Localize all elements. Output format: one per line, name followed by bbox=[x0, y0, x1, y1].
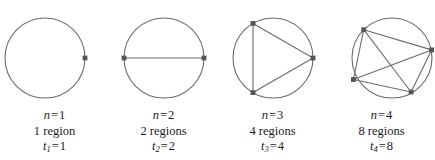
point-marker bbox=[251, 90, 256, 95]
equals-sign: = bbox=[268, 108, 277, 122]
point-marker bbox=[251, 21, 256, 26]
n-value: 1 bbox=[59, 108, 65, 122]
diagram-panel-2: n=2 2 regions t2=2 bbox=[109, 0, 218, 160]
equals-sign: = bbox=[160, 139, 169, 153]
caption-regions-line: 4 regions bbox=[218, 124, 327, 140]
panel-caption-3: n=3 4 regions t3=4 bbox=[218, 108, 327, 157]
panel-caption-1: n=1 1 region t1=1 bbox=[0, 108, 109, 157]
circle-figure-3 bbox=[218, 0, 327, 108]
caption-regions-line: 2 regions bbox=[109, 124, 218, 140]
caption-n-line: n=1 bbox=[0, 108, 109, 124]
equals-sign: = bbox=[377, 108, 386, 122]
panel-caption-2: n=2 2 regions t2=2 bbox=[109, 108, 218, 157]
n-value: 4 bbox=[386, 108, 392, 122]
n-value: 2 bbox=[168, 108, 174, 122]
chord-line bbox=[353, 30, 363, 80]
caption-n-line: n=2 bbox=[109, 108, 218, 124]
point-marker bbox=[83, 56, 88, 61]
caption-t-line: t4=8 bbox=[327, 139, 435, 157]
diagram-panel-1: n=1 1 region t1=1 bbox=[0, 0, 109, 160]
point-marker bbox=[311, 56, 316, 61]
panel-caption-4: n=4 8 regions t4=8 bbox=[327, 108, 435, 157]
n-value: 3 bbox=[277, 108, 283, 122]
caption-regions-line: 8 regions bbox=[327, 124, 435, 140]
circle-figure-1 bbox=[0, 0, 109, 108]
point-marker bbox=[361, 27, 366, 32]
diagram-panel-3: n=3 4 regions t3=4 bbox=[218, 0, 327, 160]
circle-figure-4 bbox=[327, 0, 435, 108]
point-marker bbox=[202, 56, 207, 61]
equals-sign: = bbox=[159, 108, 168, 122]
equals-sign: = bbox=[50, 108, 59, 122]
point-marker bbox=[429, 48, 434, 53]
t-value: 1 bbox=[60, 139, 66, 153]
caption-t-line: t1=1 bbox=[0, 139, 109, 157]
equals-sign: = bbox=[378, 139, 387, 153]
figure-canvas: n=1 1 region t1=1 n=2 2 regions t2=2 bbox=[0, 0, 435, 160]
caption-n-line: n=4 bbox=[327, 108, 435, 124]
point-marker bbox=[409, 90, 414, 95]
chord-line bbox=[253, 23, 313, 58]
caption-t-line: t3=4 bbox=[218, 139, 327, 157]
diagram-panel-4: n=4 8 regions t4=8 bbox=[327, 0, 435, 160]
circle-figure-2 bbox=[109, 0, 218, 108]
chord-line bbox=[364, 30, 432, 50]
circle-outline bbox=[233, 18, 313, 98]
t-value: 2 bbox=[169, 139, 175, 153]
equals-sign: = bbox=[269, 139, 278, 153]
circle-outline bbox=[5, 18, 85, 98]
t-value: 8 bbox=[387, 139, 393, 153]
point-marker bbox=[122, 56, 127, 61]
caption-regions-line: 1 region bbox=[0, 124, 109, 140]
point-marker bbox=[351, 77, 356, 82]
caption-n-line: n=3 bbox=[218, 108, 327, 124]
t-value: 4 bbox=[278, 139, 284, 153]
chord-line bbox=[253, 58, 313, 93]
equals-sign: = bbox=[51, 139, 60, 153]
caption-t-line: t2=2 bbox=[109, 139, 218, 157]
